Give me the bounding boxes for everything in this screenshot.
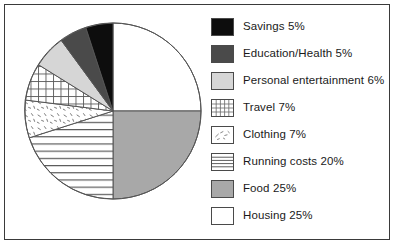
legend-label-personal-entertainment: Personal entertainment 6% bbox=[243, 75, 384, 87]
legend-item-education-health[interactable]: Education/Health 5% bbox=[211, 44, 352, 64]
legend-item-housing[interactable]: Housing 25% bbox=[211, 206, 313, 226]
pie-slices bbox=[25, 23, 201, 199]
swatch-solid-dark-gray-icon bbox=[211, 45, 234, 63]
legend-label-travel: Travel 7% bbox=[243, 102, 295, 114]
legend-item-travel[interactable]: Travel 7% bbox=[211, 98, 295, 118]
pie-chart bbox=[23, 21, 203, 201]
swatch-solid-white-icon bbox=[211, 207, 234, 225]
legend-item-clothing[interactable]: Clothing 7% bbox=[211, 125, 306, 145]
legend-item-savings[interactable]: Savings 5% bbox=[211, 17, 305, 37]
legend-label-clothing: Clothing 7% bbox=[243, 129, 306, 141]
legend-item-food[interactable]: Food 25% bbox=[211, 179, 296, 199]
pie-chart-area bbox=[5, 5, 205, 241]
legend-label-housing: Housing 25% bbox=[243, 210, 313, 222]
swatch-solid-black-icon bbox=[211, 18, 234, 36]
swatch-crosshatch-grid-icon bbox=[211, 99, 234, 117]
legend-label-education-health: Education/Health 5% bbox=[243, 48, 352, 60]
legend-label-food: Food 25% bbox=[243, 183, 296, 195]
legend-item-personal-entertainment[interactable]: Personal entertainment 6% bbox=[211, 71, 384, 91]
legend-item-running-costs[interactable]: Running costs 20% bbox=[211, 152, 344, 172]
pie-slice-food[interactable] bbox=[113, 111, 201, 199]
swatch-solid-medium-gray-icon bbox=[211, 180, 234, 198]
swatch-speckle-icon bbox=[211, 126, 234, 144]
legend: Savings 5% Education/Health 5% Personal … bbox=[211, 9, 391, 237]
legend-label-running-costs: Running costs 20% bbox=[243, 156, 344, 168]
legend-label-savings: Savings 5% bbox=[243, 21, 305, 33]
swatch-horizontal-lines-icon bbox=[211, 153, 234, 171]
swatch-solid-light-gray-icon bbox=[211, 72, 234, 90]
pie-chart-screenshot: Savings 5% Education/Health 5% Personal … bbox=[0, 0, 397, 251]
chart-frame: Savings 5% Education/Health 5% Personal … bbox=[4, 4, 390, 240]
pie-slice-housing[interactable] bbox=[113, 23, 201, 111]
